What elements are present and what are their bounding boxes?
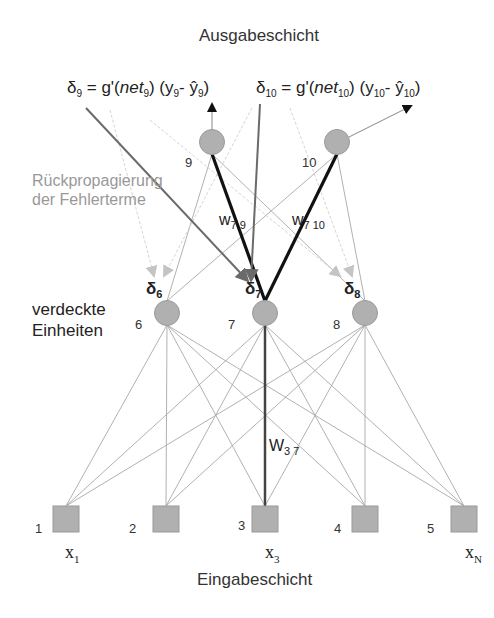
output-arrow-10	[349, 106, 411, 137]
input-node-2-label: 2	[129, 521, 136, 536]
output-layer-title: Ausgabeschicht	[199, 26, 319, 46]
backprop-label: Rückpropagierung der Fehlerterme	[32, 171, 163, 209]
input-xN: xN	[465, 542, 482, 565]
output-node-10	[325, 130, 350, 155]
input-node-2	[153, 506, 179, 532]
input-node-1-label: 1	[35, 521, 42, 536]
hidden-node-8-label: 8	[333, 317, 340, 332]
input-x1: x1	[65, 542, 80, 565]
formula-delta9: δ9 = g'(net9) (y9- ŷ9)	[67, 78, 209, 99]
input-layer-title: Eingabeschicht	[197, 570, 312, 590]
hidden-node-6	[155, 301, 180, 326]
input-node-5-label: 5	[427, 521, 434, 536]
input-node-4	[352, 506, 378, 532]
weight-label-w710: w7 10	[292, 211, 325, 231]
delta-8: δ8	[344, 279, 360, 300]
hidden-node-6-label: 6	[135, 317, 142, 332]
weight-label-w79: w7 9	[219, 211, 246, 231]
hidden-node-7-label: 7	[228, 317, 235, 332]
output-node-10-label: 10	[302, 155, 316, 170]
output-node-9-label: 9	[185, 155, 192, 170]
hidden-node-8	[353, 301, 378, 326]
formula-delta10: δ10 = g'(net10) (y10- ŷ10)	[256, 78, 420, 99]
output-node-9	[200, 130, 225, 155]
input-node-4-label: 4	[334, 521, 341, 536]
input-node-3-label: 3	[238, 518, 245, 533]
hidden-layer-label: verdeckte Einheiten	[32, 299, 106, 341]
delta-6: δ6	[146, 279, 162, 300]
input-node-3	[252, 506, 278, 532]
input-node-5	[451, 506, 477, 532]
hidden-node-7	[253, 301, 278, 326]
input-node-1	[53, 506, 79, 532]
weight-label-w37: W3 7	[269, 437, 299, 457]
input-x3: x3	[265, 542, 280, 565]
delta-7: δ7	[245, 279, 261, 300]
